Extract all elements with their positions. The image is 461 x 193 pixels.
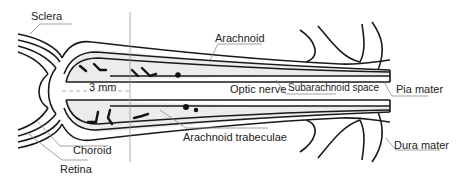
label-retina: Retina <box>60 164 92 175</box>
label-choroid: Choroid <box>73 145 112 156</box>
label-optic-nerve: Optic nerve <box>230 84 286 95</box>
label-subarachnoid-space: Subarachnoid space <box>288 83 379 93</box>
retina-inner <box>18 52 48 74</box>
label-measurement: 3 mm <box>89 82 117 93</box>
label-arachnoid-trabeculae: Arachnoid trabeculae <box>183 132 287 143</box>
label-arachnoid: Arachnoid <box>215 33 265 44</box>
label-pia-mater: Pia mater <box>396 84 443 95</box>
label-sclera: Sclera <box>31 11 62 22</box>
eye-globe <box>18 34 62 148</box>
label-dura-mater: Dura mater <box>394 140 449 151</box>
